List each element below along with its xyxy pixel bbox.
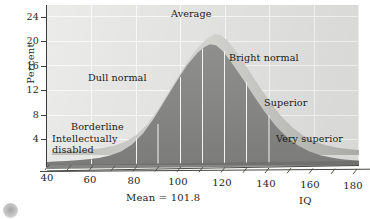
x-axis-ticks xyxy=(40,160,370,176)
y-tick xyxy=(41,90,46,91)
y-tick xyxy=(41,115,46,116)
x-tick-label-80: 80 xyxy=(117,175,151,186)
y-tick xyxy=(41,139,46,140)
x-tick-label-120: 120 xyxy=(205,177,239,188)
annotation-dull-normal: Dull normal xyxy=(88,72,147,83)
annotation-intellectually-disabled: Intellectually disabled xyxy=(52,133,136,155)
x-tick-label-100: 100 xyxy=(161,176,195,187)
y-tick-label-4: 4 xyxy=(15,133,39,144)
iq-distribution-figure: 24 20 16 12 8 4 Percent 40 60 80 100 120… xyxy=(0,0,370,219)
x-tick-label-180: 180 xyxy=(336,180,370,191)
annotation-average: Average xyxy=(171,8,211,19)
y-axis-line xyxy=(46,5,47,167)
annotation-bright-normal: Bright normal xyxy=(229,52,299,63)
page-corner-mark xyxy=(3,203,18,218)
annotation-very-superior: Very superior xyxy=(276,133,343,144)
x-tick-label-140: 140 xyxy=(249,178,283,189)
mean-note: Mean = 101.8 xyxy=(126,192,200,203)
y-tick-label-8: 8 xyxy=(15,109,39,120)
y-tick xyxy=(41,17,46,18)
y-tick-label-24: 24 xyxy=(15,11,39,22)
x-tick-label-160: 160 xyxy=(293,179,327,190)
y-tick xyxy=(41,66,46,67)
y-axis-title: Percent xyxy=(25,33,36,95)
x-axis-title: IQ xyxy=(299,195,312,206)
y-tick xyxy=(41,41,46,42)
annotation-borderline: Borderline xyxy=(71,121,124,132)
annotation-superior: Superior xyxy=(264,97,307,108)
